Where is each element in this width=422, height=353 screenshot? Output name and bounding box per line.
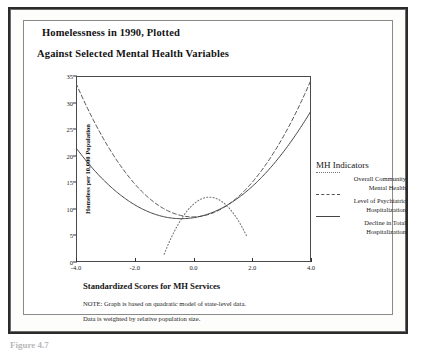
legend-entry: Level of PsychiatricHospitalization	[316, 194, 408, 214]
legend-entry: Decline in TotalHospitalization	[316, 216, 408, 236]
legend-entry: Overall CommunityMental Health	[316, 172, 408, 192]
legend-label: Level of Psychiatric	[316, 196, 408, 205]
figure-caption: Figure 4.7	[10, 340, 49, 351]
legend: MH Indicators Overall CommunityMental He…	[316, 160, 408, 238]
chart-title-line-1: Homelessness in 1990, Plotted	[42, 27, 180, 38]
legend-label: Hospitalization	[316, 227, 408, 236]
x-axis-tick-labels: -4.0-2.00.02.04.0	[76, 264, 311, 276]
x-axis-tick-marks	[76, 258, 311, 263]
x-tick-label: 4.0	[307, 264, 315, 271]
x-tick-label: -2.0	[130, 264, 140, 271]
x-axis-title: Standardized Scores for MH Services	[83, 281, 220, 291]
series-curve	[76, 111, 311, 219]
x-tick-mark	[76, 258, 77, 262]
plot-curves	[76, 76, 311, 262]
legend-line-sample-solid-icon	[316, 216, 340, 217]
x-tick-mark	[194, 258, 195, 262]
series-curve	[76, 80, 311, 217]
x-tick-mark	[252, 258, 253, 262]
legend-label: Overall Community	[316, 174, 408, 183]
note-line-2: Data is weighted by relative population …	[83, 315, 200, 322]
y-axis-tick-labels: 05101520253035	[58, 76, 73, 262]
legend-entries: Overall CommunityMental HealthLevel of P…	[316, 172, 408, 236]
x-tick-label: 2.0	[248, 264, 256, 271]
legend-line-sample-dashed-icon	[316, 194, 340, 195]
series-curve	[164, 197, 246, 254]
legend-title: MH Indicators	[316, 160, 408, 170]
legend-line-sample-dotted-icon	[316, 172, 340, 173]
plot-area	[76, 76, 311, 262]
legend-label: Hospitalization	[316, 205, 408, 214]
legend-label: Mental Health	[316, 183, 408, 192]
x-tick-label: 0.0	[189, 264, 197, 271]
x-tick-mark	[311, 258, 312, 262]
note-line-1: NOTE: Graph is based on quadratic model …	[83, 300, 246, 307]
x-tick-label: -4.0	[71, 264, 81, 271]
x-tick-mark	[135, 258, 136, 262]
chart-title-line-2: Against Selected Mental Health Variables	[37, 48, 229, 59]
legend-label: Decline in Total	[316, 218, 408, 227]
